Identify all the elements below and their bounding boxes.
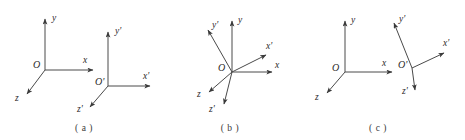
panel-c-label-x-prime: x' xyxy=(442,38,450,48)
panel-a: O y x z O' y' x' z' ( a ) xyxy=(14,13,150,134)
panel-c-label-y: y xyxy=(350,15,356,25)
panel-c-label-y-prime: y' xyxy=(398,14,406,24)
panel-a-label-y-prime: y' xyxy=(114,26,122,36)
panel-b: O y x z y' x' z' ( b ) xyxy=(196,15,280,134)
panel-c-axis-z xyxy=(327,72,345,93)
panel-b-label-x: x xyxy=(274,60,280,70)
panel-a-label-x: x xyxy=(82,55,88,65)
panel-a-axis-z xyxy=(27,70,45,94)
panel-a-axis-z-prime xyxy=(90,86,108,107)
panel-c-label-z-prime: z' xyxy=(401,86,409,96)
panel-c-label-z: z xyxy=(314,92,319,102)
panel-c-frame-unprimed: O y x z xyxy=(314,15,392,102)
panel-a-caption: ( a ) xyxy=(75,123,93,134)
panel-c: O y x z O' y' x' z' ( c ) xyxy=(314,14,450,134)
panel-c-origin-label: O xyxy=(332,62,339,73)
panel-a-label-z-prime: z' xyxy=(76,104,84,114)
panel-b-label-z: z xyxy=(196,89,201,99)
panel-b-frame-unprimed: O y x z xyxy=(196,15,280,99)
panel-a-frame-unprimed: O y x z xyxy=(14,13,93,103)
panel-b-axis-z-prime xyxy=(224,72,232,104)
panel-b-caption: ( b ) xyxy=(221,123,239,134)
panel-b-label-x-prime: x' xyxy=(265,41,273,51)
panel-b-origin-label: O xyxy=(218,62,225,73)
panel-a-origin-prime-label: O' xyxy=(95,76,105,87)
figure-canvas: O y x z O' y' x' z' ( a ) O xyxy=(0,0,465,140)
panel-c-origin-prime-label: O' xyxy=(398,59,408,70)
panel-a-label-x-prime: x' xyxy=(142,71,150,81)
panel-c-axis-z-prime xyxy=(412,68,415,90)
panel-b-label-y: y xyxy=(237,15,243,25)
panel-c-frame-primed: O' y' x' z' xyxy=(394,14,450,96)
panel-a-label-y: y xyxy=(51,13,57,23)
panel-c-label-x: x xyxy=(381,58,387,68)
panel-b-axis-z xyxy=(209,72,232,92)
panel-c-axis-x-prime xyxy=(412,53,444,68)
panel-a-origin-label: O xyxy=(33,59,40,70)
panel-c-caption: ( c ) xyxy=(369,123,387,134)
panel-b-label-y-prime: y' xyxy=(211,20,219,30)
panel-a-label-z: z xyxy=(14,93,19,103)
panel-b-axis-x-prime xyxy=(232,55,266,72)
coordinate-frames-figure: O y x z O' y' x' z' ( a ) O xyxy=(0,0,465,140)
panel-b-label-z-prime: z' xyxy=(208,104,216,114)
